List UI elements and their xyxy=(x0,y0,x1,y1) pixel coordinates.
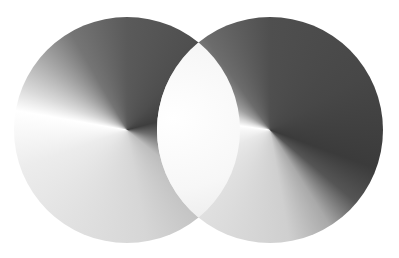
overlap-lens xyxy=(157,17,383,243)
overlap-lens-fill xyxy=(157,17,240,243)
